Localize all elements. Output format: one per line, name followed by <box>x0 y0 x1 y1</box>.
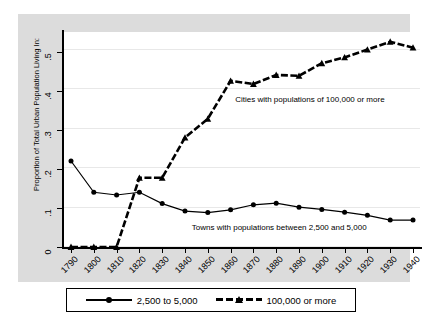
x-tick-mark <box>185 249 186 253</box>
x-tick-mark <box>345 249 346 253</box>
y-tick-label: .1 <box>40 202 55 214</box>
x-tick-label: 1810 <box>100 254 125 279</box>
data-point-marker <box>160 201 165 206</box>
y-tick-mark <box>57 130 62 131</box>
data-point-marker <box>342 210 347 215</box>
y-tick-mark <box>57 52 62 53</box>
series-plot <box>64 32 420 247</box>
plot-area: Cities with populations of 100,000 or mo… <box>64 32 420 247</box>
x-tick-mark <box>413 249 414 253</box>
y-tick-mark <box>57 169 62 170</box>
x-tick-mark <box>208 249 209 253</box>
legend-entry-large-cities[interactable]: 100,000 or more <box>216 294 337 306</box>
data-point-marker <box>251 202 256 207</box>
y-tick-label: .2 <box>40 163 55 175</box>
dashed-line-icon <box>216 294 262 306</box>
x-tick-label: 1870 <box>237 254 262 279</box>
x-tick-mark <box>299 249 300 253</box>
data-point-marker <box>205 210 210 215</box>
x-tick-mark <box>94 249 95 253</box>
x-tick-mark <box>162 249 163 253</box>
annotation-towns: Towns with populations between 2,500 and… <box>192 223 367 232</box>
annotation-cities: Cities with populations of 100,000 or mo… <box>235 95 384 104</box>
x-tick-label: 1790 <box>55 254 80 279</box>
x-tick-mark <box>390 249 391 253</box>
x-tick-label: 1940 <box>397 254 422 279</box>
chart-figure: Cities with populations of 100,000 or mo… <box>0 0 422 320</box>
series-line <box>71 161 413 220</box>
data-point-marker <box>297 205 302 210</box>
x-tick-label: 1930 <box>374 254 399 279</box>
x-tick-label: 1850 <box>191 254 216 279</box>
x-tick-label: 1890 <box>283 254 308 279</box>
legend-entry-small-towns[interactable]: 2,500 to 5,000 <box>86 294 198 306</box>
data-point-marker <box>319 207 324 212</box>
x-tick-mark <box>139 249 140 253</box>
chart-legend: 2,500 to 5,000 100,000 or more <box>66 288 356 312</box>
x-tick-label: 1840 <box>169 254 194 279</box>
data-point-marker <box>183 209 188 214</box>
data-point-marker <box>227 77 234 83</box>
data-point-marker <box>137 190 142 195</box>
y-tick-mark <box>57 247 62 248</box>
triangle-marker-icon <box>235 296 243 303</box>
y-tick-mark <box>57 91 62 92</box>
data-point-marker <box>91 190 96 195</box>
graph-canvas: Cities with populations of 100,000 or mo… <box>18 14 410 282</box>
x-tick-mark <box>367 249 368 253</box>
data-point-marker <box>228 207 233 212</box>
legend-label: 2,500 to 5,000 <box>137 295 198 306</box>
legend-label: 100,000 or more <box>267 295 337 306</box>
circle-marker-icon <box>106 297 112 303</box>
y-tick-label: .3 <box>40 124 55 136</box>
y-axis-title: Proportion of Total Urban Population Liv… <box>32 25 41 205</box>
solid-line-icon <box>86 294 132 306</box>
x-tick-label: 1900 <box>305 254 330 279</box>
x-tick-label: 1910 <box>328 254 353 279</box>
x-tick-label: 1830 <box>146 254 171 279</box>
y-tick-mark <box>57 208 62 209</box>
x-tick-mark <box>231 249 232 253</box>
series-line <box>71 42 413 247</box>
data-point-marker <box>365 213 370 218</box>
x-tick-label: 1880 <box>260 254 285 279</box>
x-tick-label: 1820 <box>123 254 148 279</box>
x-tick-label: 1920 <box>351 254 376 279</box>
x-tick-label: 1860 <box>214 254 239 279</box>
x-tick-mark <box>276 249 277 253</box>
x-tick-mark <box>117 249 118 253</box>
y-tick-label: .5 <box>40 46 55 58</box>
data-point-marker <box>318 60 325 66</box>
y-tick-label: .4 <box>40 85 55 97</box>
data-point-marker <box>69 159 74 164</box>
y-tick-label: 0 <box>40 241 55 253</box>
y-axis-line <box>62 30 64 249</box>
x-tick-mark <box>322 249 323 253</box>
x-tick-label: 1800 <box>77 254 102 279</box>
data-point-marker <box>411 218 416 223</box>
data-point-marker <box>274 201 279 206</box>
data-point-marker <box>114 193 119 198</box>
data-point-marker <box>388 218 393 223</box>
x-tick-mark <box>253 249 254 253</box>
x-tick-mark <box>71 249 72 253</box>
